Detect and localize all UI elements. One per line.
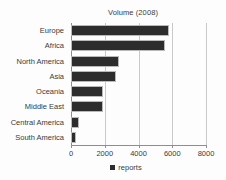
y-axis-label-asia: Asia: [0, 69, 67, 84]
bar-middle-east[interactable]: [71, 101, 103, 112]
y-axis-label-africa: Africa: [0, 38, 67, 53]
x-tick-mark-4000: [139, 145, 140, 148]
y-axis-label-oceania: Oceania: [0, 84, 67, 99]
bar-africa[interactable]: [71, 40, 165, 51]
bar-row: [71, 99, 206, 114]
bar-asia[interactable]: [71, 71, 116, 82]
x-axis-ticks: 02000400060008000: [0, 145, 226, 157]
bar-row: [71, 54, 206, 69]
y-axis-label-central-america: Central America: [0, 115, 67, 130]
bar-row: [71, 23, 206, 38]
y-axis-label-europe: Europe: [0, 23, 67, 38]
chart-title: Volume (2008): [0, 8, 226, 17]
x-tick-label-6000: 6000: [164, 149, 181, 158]
plot-area: [71, 23, 206, 145]
x-tick-mark-0: [71, 145, 72, 148]
x-tick-label-0: 0: [69, 149, 73, 158]
bar-row: [71, 130, 206, 145]
x-tick-label-4000: 4000: [130, 149, 147, 158]
bar-europe[interactable]: [71, 25, 169, 36]
bar-row: [71, 69, 206, 84]
bar-chart: Volume (2008) EuropeAfricaNorth AmericaA…: [0, 0, 226, 180]
gridline-8000: [206, 23, 207, 145]
bar-south-america[interactable]: [71, 132, 76, 143]
y-axis-category-labels: EuropeAfricaNorth AmericaAsiaOceaniaMidd…: [0, 23, 67, 145]
bar-north-america[interactable]: [71, 56, 119, 67]
x-tick-label-2000: 2000: [96, 149, 113, 158]
bar-row: [71, 115, 206, 130]
x-tick-label-8000: 8000: [198, 149, 215, 158]
chart-legend: reports: [0, 163, 226, 172]
y-axis-label-north-america: North America: [0, 54, 67, 69]
bar-rows: [71, 23, 206, 145]
legend-swatch-reports: [110, 165, 115, 170]
x-tick-mark-2000: [105, 145, 106, 148]
legend-label-reports: reports: [118, 163, 141, 172]
x-tick-mark-6000: [172, 145, 173, 148]
bar-row: [71, 38, 206, 53]
bar-oceania[interactable]: [71, 86, 103, 97]
bar-row: [71, 84, 206, 99]
y-axis-label-south-america: South America: [0, 130, 67, 145]
x-tick-mark-8000: [206, 145, 207, 148]
bar-central-america[interactable]: [71, 117, 79, 128]
y-axis-label-middle-east: Middle East: [0, 99, 67, 114]
